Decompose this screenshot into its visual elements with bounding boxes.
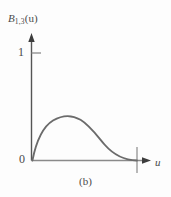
x-axis-arrowhead	[142, 157, 151, 163]
y-axis-title-subscript: 1,3	[15, 17, 25, 26]
y-axis-arrowhead	[28, 33, 34, 42]
plot-canvas	[0, 0, 171, 197]
y-axis-title-argument: (u)	[25, 12, 38, 24]
figure-caption: (b)	[0, 176, 171, 187]
figure-panel-b: B1,3(u) 1 0 u (b)	[0, 0, 171, 197]
x-axis-title: u	[155, 157, 161, 168]
origin-label: 0	[19, 153, 25, 165]
y-axis-title: B1,3(u)	[8, 13, 38, 26]
y-axis-title-base: B	[8, 12, 15, 24]
basis-function-curve	[32, 116, 137, 160]
y-tick-label-1: 1	[18, 46, 24, 58]
